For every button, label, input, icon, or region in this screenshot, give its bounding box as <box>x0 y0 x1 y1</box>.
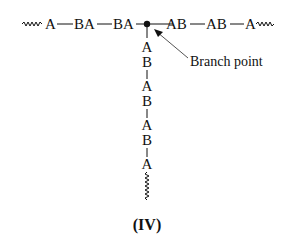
left-wavy-end-icon <box>22 22 42 26</box>
vertical-unit-a-4: A <box>142 156 153 172</box>
branch-point-arrow-line <box>157 32 188 58</box>
vertical-unit-a-2: A <box>142 78 153 94</box>
figure-caption: (IV) <box>133 216 161 234</box>
unit-ba-1: BA <box>74 16 95 32</box>
unit-ba-2: BA <box>113 16 134 32</box>
vertical-unit-b-1: B <box>142 54 152 70</box>
unit-ab-1: AB <box>166 16 187 32</box>
branch-point-dot <box>144 21 150 27</box>
right-wavy-end-icon <box>256 22 274 26</box>
vertical-unit-b-3: B <box>142 132 152 148</box>
unit-a-right: A <box>245 16 256 32</box>
branched-polymer-diagram: A BA BA AB AB A A B A B A B A Branch poi… <box>0 0 284 243</box>
bottom-wavy-end-icon <box>145 172 149 200</box>
vertical-unit-a-3: A <box>142 117 153 133</box>
branch-point-label: Branch point <box>190 54 263 69</box>
vertical-unit-b-2: B <box>142 93 152 109</box>
unit-a-left: A <box>45 16 56 32</box>
vertical-unit-a-1: A <box>142 39 153 55</box>
unit-ab-2: AB <box>206 16 227 32</box>
